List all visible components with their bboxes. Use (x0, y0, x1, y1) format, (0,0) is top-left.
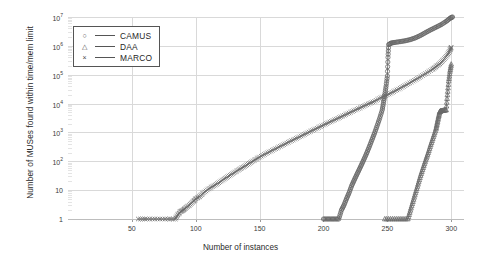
chart-legend: ○ CAMUS △ DAA × MARCO (73, 26, 160, 67)
y-axis-tick-label: 106 (52, 41, 63, 50)
y-axis-tick-label: 105 (52, 70, 63, 79)
series-line (138, 47, 451, 219)
legend-item-marco: × MARCO (79, 52, 152, 63)
x-axis-tick-label: 150 (254, 225, 266, 232)
circle-marker-icon: ○ (79, 32, 90, 39)
x-axis-tick-label: 50 (128, 225, 136, 232)
legend-line-swatch (95, 46, 115, 47)
legend-label-marco: MARCO (120, 53, 152, 63)
y-axis-tick-label: 104 (52, 99, 63, 108)
legend-line-swatch (95, 57, 115, 58)
x-axis-tick-label: 300 (445, 225, 457, 232)
legend-item-camus: ○ CAMUS (79, 30, 152, 41)
x-axis-tick-label: 100 (190, 225, 202, 232)
y-axis-tick-label: 103 (52, 128, 63, 137)
x-marker-icon: × (79, 54, 90, 61)
series-daa (382, 62, 453, 221)
y-axis-tick-label: 1 (59, 216, 63, 223)
legend-item-daa: △ DAA (79, 41, 152, 52)
y-axis-tick-label: 10 (55, 187, 63, 194)
y-axis-title: Number of MUSes found within time/mem li… (26, 23, 35, 203)
y-axis-tick-label: 102 (52, 157, 63, 166)
series-line (385, 64, 451, 219)
x-axis-tick-label: 250 (382, 225, 394, 232)
triangle-marker-icon: △ (79, 43, 90, 50)
chart-figure: Number of MUSes found within time/mem li… (0, 0, 481, 267)
legend-label-daa: DAA (120, 42, 138, 52)
series-line (323, 17, 452, 219)
legend-label-camus: CAMUS (120, 31, 151, 41)
x-axis-title: Number of instances (0, 243, 481, 252)
series-marco (136, 45, 453, 221)
y-axis-tick-label: 107 (52, 12, 63, 21)
legend-line-swatch (95, 35, 115, 36)
x-axis-tick-label: 200 (318, 225, 330, 232)
series-camus (321, 15, 454, 221)
